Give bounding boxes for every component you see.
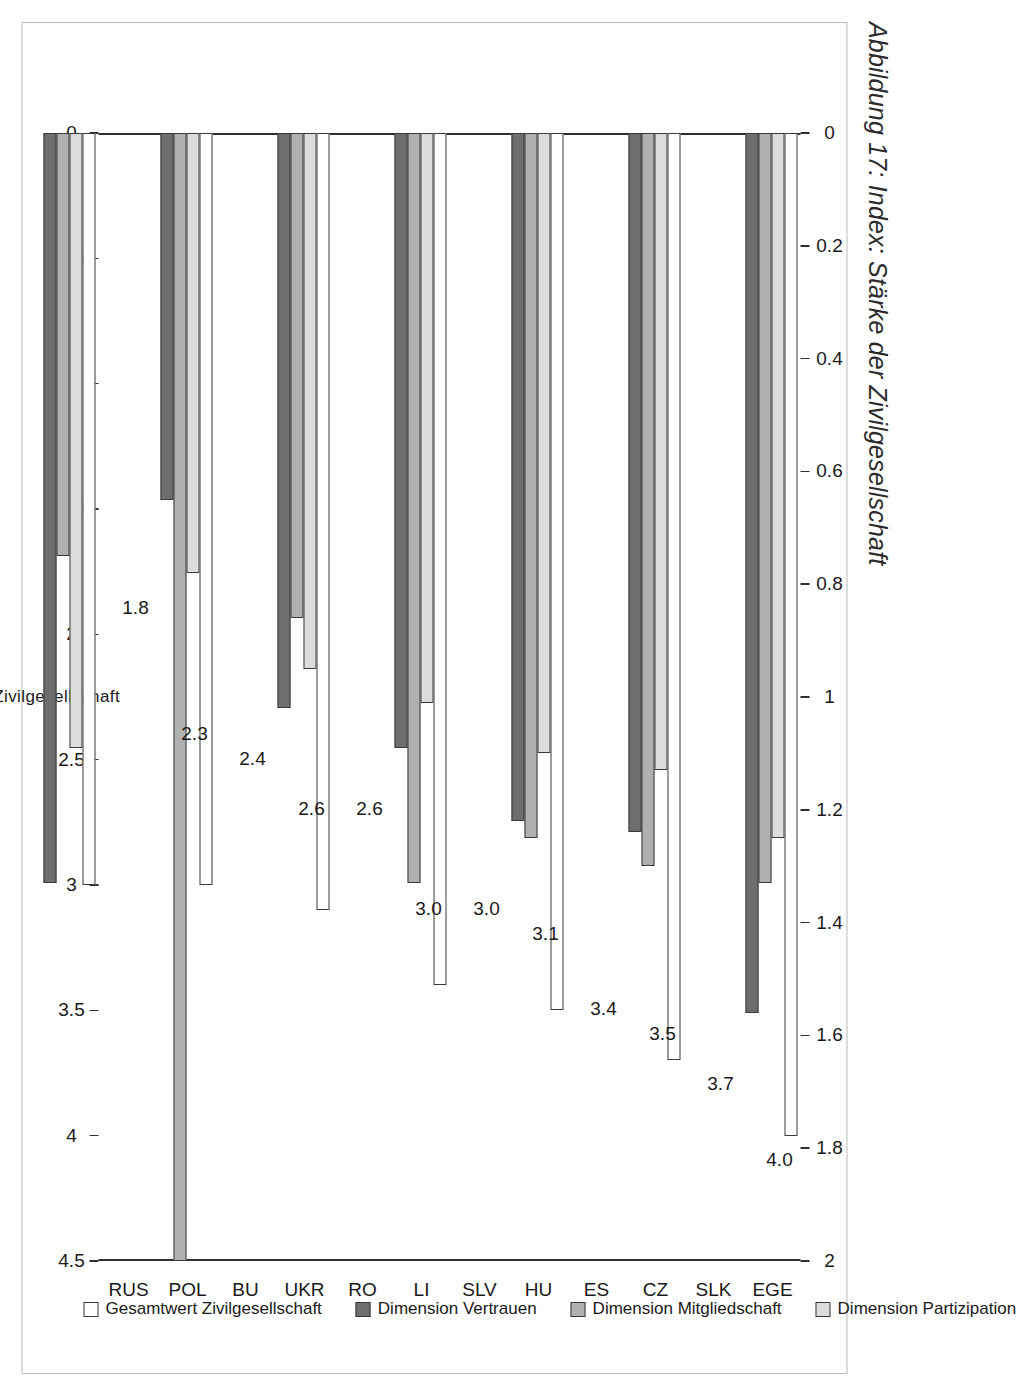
axis-tick	[800, 922, 809, 924]
bar-partizipation	[420, 133, 433, 703]
bar-vertrauen	[43, 133, 56, 883]
bar-mitgliedschaft	[407, 133, 420, 883]
legend-item[interactable]: Dimension Partizipation	[815, 1299, 1016, 1319]
axis-tick	[89, 1010, 98, 1012]
bar-vertrauen	[628, 133, 641, 832]
category-label: LI	[398, 1279, 444, 1301]
bar-group	[742, 133, 801, 1261]
legend-swatch-icon	[83, 1302, 98, 1317]
category-label: UKR	[281, 1279, 327, 1301]
category-label: ES	[573, 1279, 619, 1301]
bar-mitgliedschaft	[56, 133, 69, 556]
bar-total	[199, 133, 212, 885]
bar-partizipation	[186, 133, 199, 573]
axis-tick-label: 0.8	[807, 573, 851, 595]
bar-mitgliedschaft	[173, 133, 186, 1261]
category-label: RUS	[105, 1279, 151, 1301]
axis-tick-label: 1.8	[807, 1137, 851, 1159]
axis-tick	[800, 1147, 809, 1149]
category-label: CZ	[632, 1279, 678, 1301]
axis-tick	[800, 1260, 809, 1262]
bar-group	[449, 133, 508, 1261]
bar-total	[82, 133, 95, 885]
axis-tick	[800, 1035, 809, 1037]
bar-partizipation	[771, 133, 784, 838]
bar-partizipation	[69, 133, 82, 748]
axis-tick-label: 1	[807, 686, 851, 708]
figure-caption: Abbildung 17: Index: Stärke der Zivilges…	[862, 22, 891, 565]
axis-tick	[89, 1260, 98, 1262]
bar-value-label: 2.6	[291, 798, 331, 820]
plot-area	[98, 133, 800, 1261]
legend-label: Gesamtwert Zivilgesellschaft	[105, 1299, 321, 1319]
bar-partizipation	[537, 133, 550, 753]
axis-tick-label: 1.6	[807, 1024, 851, 1046]
axis-tick-label: 1.2	[807, 799, 851, 821]
axis-tick-label: 0	[807, 122, 851, 144]
bar-value-label: 1.8	[115, 597, 155, 619]
axis-tick-label: 0.4	[807, 348, 851, 370]
axis-tick	[800, 471, 809, 473]
axis-tick-label: 0.6	[807, 460, 851, 482]
category-label: EGE	[749, 1279, 795, 1301]
axis-tick	[89, 1135, 98, 1137]
axis-tick-label: 4.5	[49, 1250, 93, 1272]
category-label: POL	[164, 1279, 210, 1301]
bar-value-label: 3.0	[466, 898, 506, 920]
legend-label: Dimension Partizipation	[837, 1299, 1016, 1319]
axis-tick	[800, 583, 809, 585]
figure-frame: 00.20.40.60.811.21.41.61.82 00.511.522.5…	[21, 22, 847, 1374]
axis-tick	[800, 696, 809, 698]
legend-swatch-icon	[570, 1302, 585, 1317]
bar-mitgliedschaft	[641, 133, 654, 866]
bar-value-label: 3.5	[642, 1023, 682, 1045]
bar-group	[215, 133, 274, 1261]
axis-tick	[800, 358, 809, 360]
bar-partizipation	[654, 133, 667, 770]
bar-vertrauen	[394, 133, 407, 748]
bar-group	[566, 133, 625, 1261]
bar-value-label: 2.4	[232, 748, 272, 770]
bar-value-label: 2.3	[174, 723, 214, 745]
bar-total	[316, 133, 329, 910]
bar-mitgliedschaft	[758, 133, 771, 883]
axis-tick	[800, 245, 809, 247]
bar-total	[433, 133, 446, 985]
category-label: SLK	[690, 1279, 736, 1301]
legend-swatch-icon	[815, 1302, 830, 1317]
bar-total	[667, 133, 680, 1060]
bar-value-label: 4.0	[759, 1149, 799, 1171]
axis-tick-label: 1.4	[807, 912, 851, 934]
bar-mitgliedschaft	[290, 133, 303, 618]
bar-partizipation	[303, 133, 316, 669]
bar-group	[332, 133, 391, 1261]
axis-tick	[800, 809, 809, 811]
legend-item[interactable]: Dimension Vertrauen	[355, 1299, 536, 1319]
category-label: RO	[339, 1279, 385, 1301]
legend-item[interactable]: Dimension Mitgliedschaft	[570, 1299, 781, 1319]
bar-value-label: 3.7	[700, 1073, 740, 1095]
axis-tick-label: 4	[49, 1125, 93, 1147]
bar-vertrauen	[277, 133, 290, 708]
bar-vertrauen	[745, 133, 758, 1013]
bar-total	[784, 133, 797, 1136]
legend-label: Dimension Mitgliedschaft	[592, 1299, 781, 1319]
bar-vertrauen	[511, 133, 524, 821]
bar-value-label: 3.4	[583, 998, 623, 1020]
legend-swatch-icon	[355, 1302, 370, 1317]
bar-total	[550, 133, 563, 1010]
bar-mitgliedschaft	[524, 133, 537, 838]
category-label: SLV	[456, 1279, 502, 1301]
axis-tick-label: 0.2	[807, 235, 851, 257]
category-label: HU	[515, 1279, 561, 1301]
category-label: BU	[222, 1279, 268, 1301]
legend-item[interactable]: Gesamtwert Zivilgesellschaft	[83, 1299, 321, 1319]
chart-legend: Gesamtwert ZivilgesellschaftDimension Ve…	[83, 1299, 843, 1319]
axis-tick-label: 2	[807, 1250, 851, 1272]
legend-label: Dimension Vertrauen	[377, 1299, 536, 1319]
axis-tick-label: 3.5	[49, 999, 93, 1021]
bar-value-label: 3.0	[408, 898, 448, 920]
bar-value-label: 2.6	[349, 798, 389, 820]
axis-tick	[800, 132, 809, 134]
